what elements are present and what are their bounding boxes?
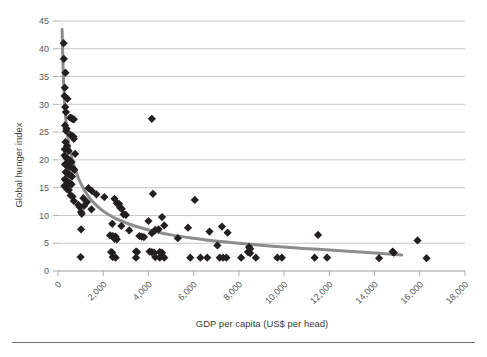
data-points xyxy=(60,39,431,262)
gridlines xyxy=(58,21,465,271)
data-point-marker xyxy=(237,254,245,262)
data-point-marker xyxy=(223,229,231,237)
data-point-marker xyxy=(203,254,211,262)
data-point-marker xyxy=(144,217,152,225)
y-axis-tick-marks xyxy=(53,21,58,271)
y-tick-label: 0 xyxy=(44,266,49,276)
data-point-marker xyxy=(422,254,430,262)
data-point-marker xyxy=(191,196,199,204)
y-tick-label: 25 xyxy=(39,127,49,137)
x-tick-label: 16,000 xyxy=(399,279,426,306)
data-point-marker xyxy=(278,254,286,262)
data-point-marker xyxy=(87,205,95,213)
y-tick-label: 45 xyxy=(39,16,49,26)
x-tick-label: 4,000 xyxy=(131,279,154,302)
data-point-marker xyxy=(158,213,166,221)
y-tick-label: 20 xyxy=(39,155,49,165)
x-tick-label: 0 xyxy=(53,279,64,290)
data-point-marker xyxy=(60,39,68,47)
y-tick-label: 35 xyxy=(39,72,49,82)
data-point-marker xyxy=(252,254,260,262)
x-tick-label: 6,000 xyxy=(176,279,199,302)
data-point-marker xyxy=(186,254,194,262)
y-axis-title: Global hunger index xyxy=(13,122,24,207)
x-tick-label: 18,000 xyxy=(444,279,471,306)
y-tick-label: 5 xyxy=(44,238,49,248)
data-point-marker xyxy=(100,193,108,201)
y-tick-label: 30 xyxy=(39,100,49,110)
data-point-marker xyxy=(132,254,140,262)
x-tick-label: 10,000 xyxy=(263,279,290,306)
x-axis-title: GDP per capita (US$ per head) xyxy=(196,318,328,329)
x-tick-label: 8,000 xyxy=(221,279,244,302)
data-point-marker xyxy=(184,224,192,232)
x-tick-label: 14,000 xyxy=(353,279,380,306)
data-point-marker xyxy=(77,253,85,261)
data-point-marker xyxy=(108,220,116,228)
data-point-marker xyxy=(149,190,157,198)
data-point-marker xyxy=(125,226,133,234)
scatter-plot: 051015202530354045 02,0004,0006,0008,000… xyxy=(0,0,487,357)
data-point-marker xyxy=(148,115,156,123)
y-axis-tick-labels: 051015202530354045 xyxy=(39,16,49,276)
y-tick-label: 15 xyxy=(39,183,49,193)
x-axis-tick-marks xyxy=(58,271,465,276)
x-tick-label: 2,000 xyxy=(86,279,109,302)
x-axis-tick-labels: 02,0004,0006,0008,00010,00012,00014,0001… xyxy=(53,279,471,306)
chart-figure: 051015202530354045 02,0004,0006,0008,000… xyxy=(0,0,487,357)
data-point-marker xyxy=(218,222,226,230)
data-point-marker xyxy=(62,108,70,116)
data-point-marker xyxy=(311,254,319,262)
y-tick-label: 40 xyxy=(39,44,49,54)
y-tick-label: 10 xyxy=(39,211,49,221)
data-point-marker xyxy=(77,225,85,233)
data-point-marker xyxy=(314,231,322,239)
x-tick-label: 12,000 xyxy=(308,279,335,306)
data-point-marker xyxy=(323,254,331,262)
data-point-marker xyxy=(375,254,383,262)
footer-divider xyxy=(12,342,475,343)
data-point-marker xyxy=(205,227,213,235)
data-point-marker xyxy=(61,84,69,92)
data-point-marker xyxy=(60,55,68,63)
